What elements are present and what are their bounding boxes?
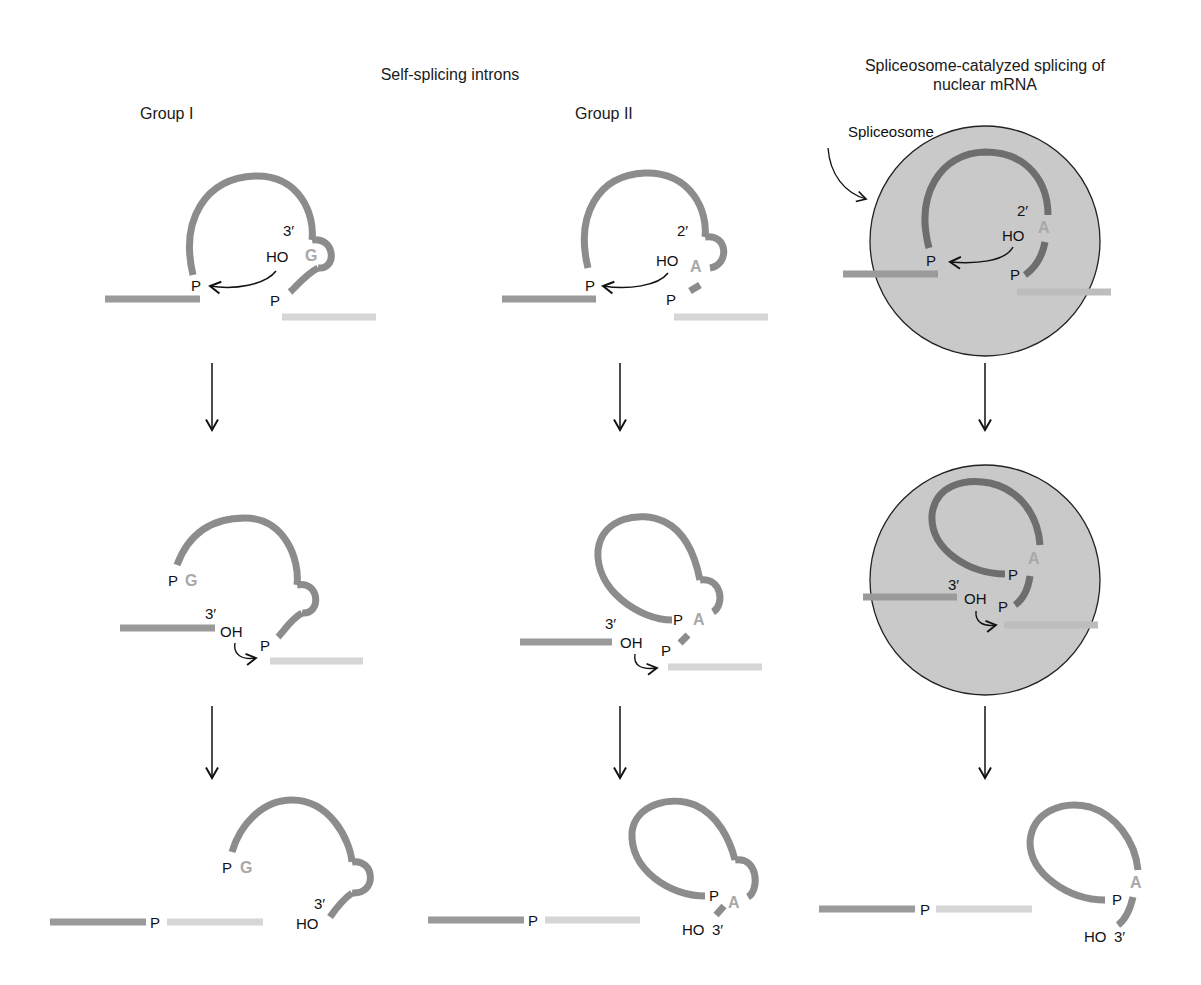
svg-text:HO: HO [656, 252, 679, 269]
svg-text:P: P [1112, 891, 1122, 908]
svg-text:A: A [693, 611, 705, 628]
group1-step1: G 3′ HO P P [105, 176, 376, 317]
svg-text:P: P [168, 572, 178, 589]
svg-text:G: G [240, 859, 252, 876]
svg-text:HO: HO [682, 921, 705, 938]
splicing-diagram: G 3′ HO P P A 2′ HO P P Spliceosome A 2′… [0, 0, 1201, 985]
svg-text:P: P [191, 277, 201, 294]
guanosine-base: G [305, 247, 317, 264]
svg-text:P: P [673, 611, 683, 628]
svg-text:A: A [728, 894, 740, 911]
svg-text:A: A [1130, 874, 1142, 891]
svg-text:2′: 2′ [1017, 202, 1028, 219]
group1-step2: P G 3′ OH P [120, 518, 363, 661]
svg-text:OH: OH [220, 623, 243, 640]
svg-text:OH: OH [964, 590, 987, 607]
svg-text:P: P [1010, 266, 1020, 283]
spliceosome-products: P P A HO 3′ [819, 805, 1142, 945]
svg-text:P: P [926, 252, 936, 269]
svg-text:P: P [709, 887, 719, 904]
svg-text:3′: 3′ [605, 615, 616, 632]
svg-text:2′: 2′ [677, 222, 688, 239]
svg-text:P: P [222, 859, 232, 876]
spliceosome-particle [870, 126, 1100, 356]
group2-step1: A 2′ HO P P [502, 173, 768, 317]
svg-text:P: P [150, 914, 160, 931]
spliceosome-callout: Spliceosome [848, 123, 934, 140]
group1-products: P P G 3′ HO [50, 800, 370, 932]
spliceosome-step2: P A 3′ OH P [863, 465, 1100, 695]
svg-text:3′: 3′ [948, 576, 959, 593]
svg-text:P: P [920, 901, 930, 918]
svg-text:OH: OH [620, 634, 643, 651]
svg-text:P: P [998, 598, 1008, 615]
svg-text:P: P [270, 292, 280, 309]
svg-text:3′: 3′ [283, 222, 294, 239]
spliceosome-step1: Spliceosome A 2′ HO P P [828, 123, 1111, 356]
svg-text:P: P [661, 642, 671, 659]
svg-text:P: P [666, 291, 676, 308]
svg-text:P: P [585, 277, 595, 294]
svg-text:HO: HO [1084, 928, 1107, 945]
svg-text:3′: 3′ [1114, 928, 1125, 945]
svg-text:3′: 3′ [712, 921, 723, 938]
group2-step2: P A 3′ OH P [520, 517, 762, 669]
group2-products: P P A HO 3′ [428, 801, 755, 938]
svg-text:HO: HO [296, 915, 319, 932]
svg-text:HO: HO [266, 248, 289, 265]
svg-text:P: P [528, 912, 538, 929]
svg-text:P: P [1008, 566, 1018, 583]
svg-text:G: G [185, 572, 197, 589]
svg-text:P: P [260, 637, 270, 654]
svg-text:A: A [1028, 550, 1040, 567]
svg-text:HO: HO [1002, 227, 1025, 244]
svg-text:A: A [1038, 219, 1050, 236]
svg-text:3′: 3′ [314, 895, 325, 912]
adenosine-base: A [690, 258, 702, 275]
svg-text:3′: 3′ [205, 605, 216, 622]
